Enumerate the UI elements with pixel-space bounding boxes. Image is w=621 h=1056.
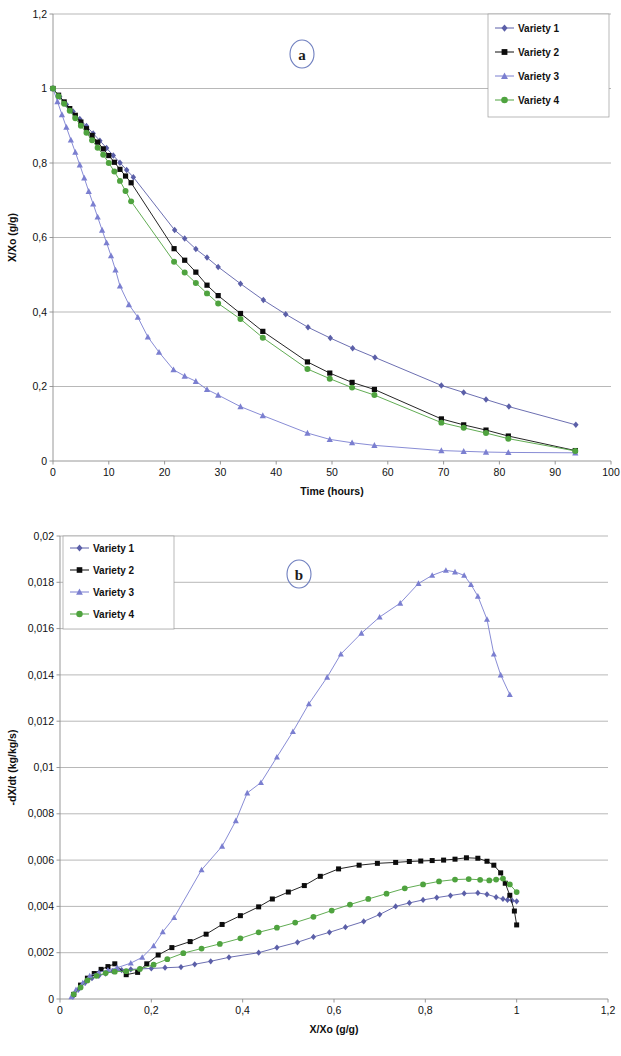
data-point [420, 882, 426, 888]
data-point [377, 614, 383, 620]
data-point [418, 859, 423, 864]
x-tick-label-6: 1,2 [601, 1004, 616, 1016]
series-variety-4 [50, 86, 578, 454]
data-point [238, 935, 244, 941]
y-tick-label-0: 0 [41, 455, 47, 467]
x-tick-label-2: 20 [159, 466, 171, 478]
data-point [233, 818, 239, 824]
data-point [216, 293, 221, 298]
legend-marker-square-icon [77, 567, 83, 573]
data-point [507, 691, 513, 697]
data-point [95, 214, 101, 220]
y-tick-label-5: 0,01 [34, 761, 55, 773]
data-point [95, 145, 101, 151]
data-point [327, 370, 332, 375]
data-point [407, 859, 412, 864]
panel-letter: a [298, 47, 306, 63]
x-tick-label-5: 50 [326, 466, 338, 478]
x-tick-label-5: 1 [514, 1004, 520, 1016]
chart-legend: Variety 1Variety 2Variety 3Variety 4 [488, 14, 609, 117]
data-point [128, 960, 134, 966]
data-point [192, 961, 197, 967]
data-point [361, 918, 366, 924]
data-point [286, 890, 291, 895]
data-point [371, 392, 377, 398]
data-point [311, 914, 317, 920]
data-point [238, 913, 243, 918]
data-point [180, 950, 186, 956]
x-tick-label-1: 10 [103, 466, 115, 478]
data-point [237, 316, 243, 322]
data-point [466, 876, 472, 882]
data-point [106, 160, 112, 166]
data-point [443, 567, 449, 573]
data-point [372, 387, 377, 392]
series-line [53, 89, 575, 451]
x-tick-label-0: 0 [57, 1004, 63, 1016]
x-tick-label-0: 0 [50, 466, 56, 478]
panel-a-svg: 00,20,40,60,811,20102030405060708090100T… [0, 0, 621, 508]
data-point [270, 896, 275, 901]
data-point [436, 879, 442, 885]
data-point [500, 896, 505, 902]
data-point [123, 188, 129, 194]
data-point [111, 169, 117, 175]
y-tick-label-9: 0,018 [28, 576, 54, 588]
x-tick-labels: 0102030405060708090100 [50, 461, 620, 478]
data-point [393, 860, 398, 865]
data-point [90, 201, 96, 207]
data-point [500, 876, 506, 882]
data-point [188, 939, 193, 944]
data-point [483, 396, 488, 403]
legend-label: Variety 4 [518, 95, 560, 106]
y-tick-label-10: 0,02 [34, 530, 55, 542]
data-point [305, 324, 310, 331]
data-point [61, 101, 67, 107]
data-point [128, 198, 134, 204]
y-tick-label-2: 0,4 [32, 306, 47, 318]
data-point [507, 882, 513, 888]
data-point [452, 877, 458, 883]
data-point [484, 859, 489, 864]
legend-label: Variety 1 [518, 23, 560, 34]
data-point [462, 890, 467, 896]
data-point [415, 580, 421, 586]
panel-letter-group: a [290, 40, 314, 68]
data-point [85, 978, 91, 984]
y-axis-title: X/Xo (g/g) [6, 213, 18, 262]
data-point [336, 866, 341, 871]
data-point [573, 422, 578, 429]
series-line [53, 89, 575, 451]
series-variety-2 [71, 855, 519, 997]
data-point [169, 945, 174, 950]
data-point [295, 939, 300, 945]
data-point [493, 894, 498, 900]
data-point [375, 861, 380, 866]
data-point [215, 264, 220, 271]
data-point [204, 290, 210, 296]
series-variety-1 [50, 85, 578, 428]
data-point [318, 874, 323, 879]
data-point [343, 924, 348, 930]
data-point [329, 908, 335, 914]
x-tick-label-7: 70 [438, 466, 450, 478]
x-axis-title: X/Xo (g/g) [310, 1023, 359, 1035]
data-point [256, 950, 261, 956]
data-point [506, 403, 511, 410]
x-tick-label-6: 60 [382, 466, 394, 478]
data-point [112, 267, 118, 273]
x-tick-label-4: 40 [270, 466, 282, 478]
data-point [402, 885, 408, 891]
data-point [204, 386, 210, 392]
legend-marker-circle-icon [501, 97, 508, 104]
data-point [215, 300, 221, 306]
y-tick-label-5: 1 [41, 82, 47, 94]
data-point [347, 902, 353, 908]
data-point [439, 382, 444, 389]
data-point [256, 929, 262, 935]
legend-label: Variety 3 [518, 71, 560, 82]
data-point [261, 297, 266, 304]
data-point [215, 392, 221, 398]
y-tick-label-4: 0,008 [28, 807, 54, 819]
y-tick-label-1: 0,2 [32, 380, 47, 392]
